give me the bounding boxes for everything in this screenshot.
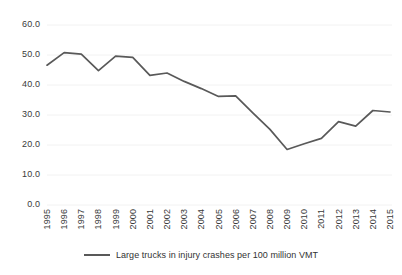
- line-chart: 0.010.020.030.040.050.060.0 199519961997…: [0, 0, 402, 275]
- legend-item-label: Large trucks in injury crashes per 100 m…: [116, 250, 318, 260]
- chart-legend: Large trucks in injury crashes per 100 m…: [0, 250, 402, 260]
- legend-line-swatch: [84, 254, 110, 256]
- grid-lines: [47, 25, 392, 205]
- series-lines: [47, 53, 390, 150]
- plot-area: [0, 0, 402, 275]
- series-line-0: [47, 53, 390, 150]
